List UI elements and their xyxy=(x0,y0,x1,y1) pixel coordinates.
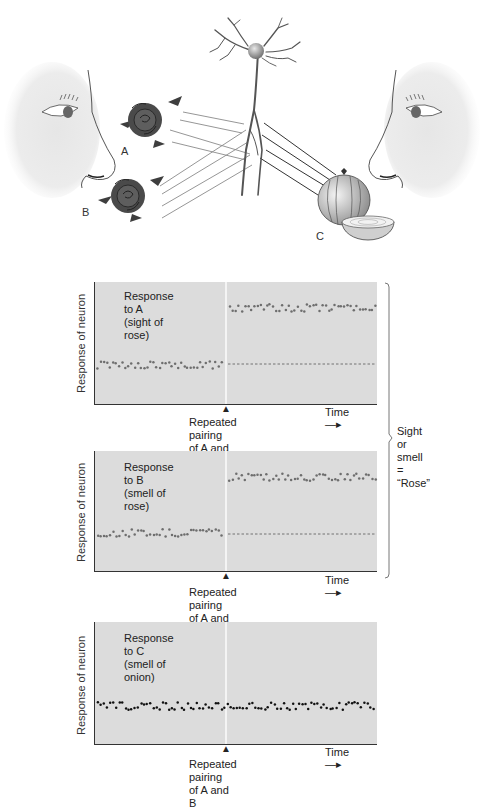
panel-c-pairing-annotation: Repeated pairing of A and B xyxy=(189,758,237,810)
panel-c-x-label: Time —▸ xyxy=(325,746,349,771)
panel-c-title: Response to C (smell of onion) xyxy=(124,632,174,684)
arrow-right-icon: —▸ xyxy=(325,758,342,770)
panel-c-y-label: Response of neuron xyxy=(75,636,87,735)
pairing-arrow-icon: ▲ xyxy=(221,744,231,754)
